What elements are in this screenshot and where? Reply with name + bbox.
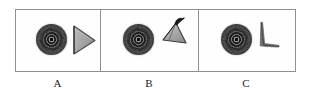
ringed-blob-icon bbox=[123, 24, 154, 55]
panel-labels-row: A B C bbox=[15, 75, 296, 91]
panel-a-content bbox=[16, 10, 100, 71]
panel-strip bbox=[15, 9, 296, 72]
panel-label-a: A bbox=[15, 75, 100, 91]
ringed-blob-icon bbox=[36, 24, 67, 55]
tilted-triangle-with-hook-icon bbox=[159, 16, 189, 62]
three-panel-figure: A B C bbox=[0, 0, 309, 95]
panel-label-c: C bbox=[198, 75, 294, 91]
panel-c[interactable] bbox=[199, 10, 295, 71]
panel-b-content bbox=[101, 10, 198, 71]
panel-label-b: B bbox=[100, 75, 198, 91]
ringed-blob-icon bbox=[221, 24, 252, 55]
panel-a[interactable] bbox=[16, 10, 101, 71]
edge-on-collapsed-triangle-icon bbox=[255, 19, 281, 57]
panel-c-content bbox=[199, 10, 295, 71]
panel-b[interactable] bbox=[101, 10, 199, 71]
right-pointing-triangle-icon bbox=[71, 24, 97, 60]
